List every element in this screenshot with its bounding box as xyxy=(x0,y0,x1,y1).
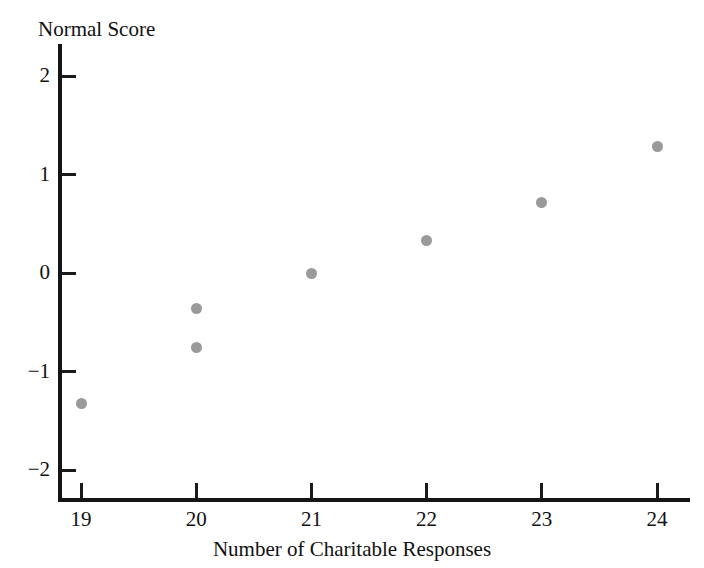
x-axis-line xyxy=(58,498,690,502)
y-tick-mark xyxy=(62,75,76,78)
y-tick-mark xyxy=(62,469,76,472)
y-tick-label: 1 xyxy=(6,164,50,185)
y-tick-mark xyxy=(62,272,76,275)
y-axis-title: Normal Score xyxy=(38,18,155,40)
x-tick-label: 23 xyxy=(512,508,572,530)
data-point xyxy=(652,141,663,152)
y-tick-label: 2 xyxy=(6,65,50,86)
x-axis-title: Number of Charitable Responses xyxy=(0,538,704,560)
data-point xyxy=(191,342,202,353)
x-tick-label: 21 xyxy=(281,508,341,530)
x-tick-label: 19 xyxy=(51,508,111,530)
x-tick-mark xyxy=(425,483,428,498)
y-tick-label: −2 xyxy=(6,459,50,480)
y-tick-label: 0 xyxy=(6,262,50,283)
y-tick-mark xyxy=(62,370,76,373)
y-tick-mark xyxy=(62,173,76,176)
x-tick-label: 20 xyxy=(166,508,226,530)
data-point xyxy=(191,303,202,314)
normal-probability-plot: Normal Score 210−1−2 192021222324 Number… xyxy=(0,0,704,568)
y-tick-label: −1 xyxy=(6,361,50,382)
data-point xyxy=(306,268,317,279)
x-tick-mark xyxy=(310,483,313,498)
x-tick-mark xyxy=(80,483,83,498)
data-point xyxy=(536,197,547,208)
x-tick-mark xyxy=(195,483,198,498)
x-tick-label: 24 xyxy=(627,508,687,530)
x-tick-mark xyxy=(540,483,543,498)
data-point xyxy=(421,235,432,246)
x-tick-label: 22 xyxy=(397,508,457,530)
data-point xyxy=(76,398,87,409)
x-tick-mark xyxy=(656,483,659,498)
